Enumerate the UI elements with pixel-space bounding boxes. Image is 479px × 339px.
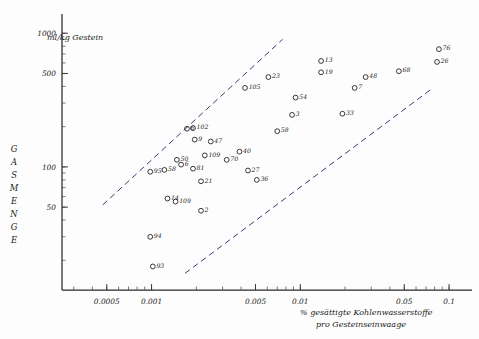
data-point-label: 76 [443,44,451,51]
data-point-label: 23 [271,72,280,79]
data-point-label: 81 [197,164,205,171]
data-point [363,75,368,80]
data-point [174,157,179,162]
data-point-label: 68 [402,66,410,73]
y-axis-title-char: N [9,209,18,219]
y-axis-title-char: G [11,144,18,154]
x-axis-title-line1: % gesättigte Kohlenwasserstoffe [300,308,433,317]
y-axis-title-char: S [11,170,17,180]
data-point-label: 58 [168,165,176,172]
data-point-label: 109 [179,197,191,204]
data-point [150,264,155,269]
data-point [275,129,280,134]
data-point [437,47,442,52]
data-point [202,153,207,158]
data-point-label: 109 [208,151,220,158]
data-point [293,95,298,100]
data-point-label: 102 [197,123,209,130]
data-point-label: 26 [440,57,449,64]
y-axis-title-char: E [10,235,17,245]
data-point-label: 36 [260,175,268,182]
data-point-label: 58 [281,126,289,133]
data-point [199,179,204,184]
x-tick-label: 0.01 [292,297,308,306]
x-tick-label: 0.0005 [94,297,120,306]
data-point-label: 48 [368,72,377,79]
y-axis-title-char: M [9,183,19,193]
data-point-label: 94 [154,232,162,239]
trend-line-upper-envelope [103,39,283,205]
data-point [208,139,213,144]
data-point [319,59,324,64]
y-axis-title: GASMENGE [9,144,19,245]
data-point-label: 27 [251,166,260,173]
data-point [266,75,271,80]
x-tick-label: 0.001 [141,297,162,306]
y-axis-title-char: E [10,196,17,206]
data-point-label: 13 [325,56,333,63]
data-point [290,112,295,117]
data-point [148,234,153,239]
data-point [396,69,401,74]
data-points-group: 7626684871319332310554358610294740109705… [148,44,451,268]
data-point-label: 19 [325,68,333,75]
data-point [224,157,229,162]
axes-group: 0.00050.0010.0050.010.050.1501005001000 [37,14,472,306]
y-tick-label: 100 [42,163,56,172]
data-point-label: 40 [242,147,251,154]
data-point [243,85,248,90]
y-axis-unit-label: ml/kg Gestein [47,33,103,42]
data-point-label: 95 [154,167,162,174]
data-point [192,137,197,142]
data-point [340,111,345,116]
data-point [165,196,170,201]
data-point [319,70,324,75]
data-point [246,168,251,173]
data-point-label: 70 [230,155,238,162]
data-point-label: 2 [204,206,209,213]
data-point-label: 21 [204,177,213,184]
data-point [179,162,184,167]
data-point [435,60,440,65]
x-tick-label: 0.05 [396,297,413,306]
data-point-label: 105 [249,83,261,90]
data-point [254,177,259,182]
data-point [352,85,357,90]
y-axis-title-char: G [11,222,18,232]
trend-line-lower-envelope [185,88,433,273]
x-axis-title-line2: pro Gesteinseinwaage [316,320,406,329]
data-point-label: 33 [346,109,354,116]
x-tick-label: 0.005 [245,297,266,306]
data-point-label: 47 [213,137,222,144]
figure-container: 0.00050.0010.0050.010.050.1501005001000 … [0,0,479,339]
data-point-label: 54 [299,93,307,100]
y-axis-title-char: A [10,157,17,167]
data-point [148,169,153,174]
x-tick-label: 0.1 [443,297,455,306]
data-point [162,167,167,172]
scatter-plot-svg: 0.00050.0010.0050.010.050.1501005001000 … [0,0,479,339]
data-point [199,208,204,213]
y-tick-label: 50 [47,203,57,212]
data-point [237,149,242,154]
data-point [191,166,196,171]
data-point-label: 93 [156,262,164,269]
data-point-label: 6 [185,160,189,167]
data-point-label: 3 [296,110,300,117]
data-point-label: 7 [358,83,362,90]
y-tick-label: 500 [42,69,56,78]
data-point-label: 9 [198,135,202,142]
